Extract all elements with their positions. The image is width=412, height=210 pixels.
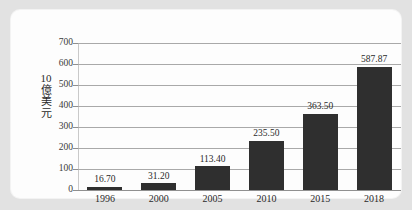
y-tick-mark-600 (73, 64, 78, 65)
bar-value-label-2005: 113.40 (200, 155, 226, 165)
bar-2005[interactable]: 113.402005 (195, 166, 230, 190)
x-tick-label-2005: 2005 (203, 194, 223, 204)
gridline-400: 400 (78, 106, 401, 107)
y-axis-title: 10 億 美 元 (33, 73, 59, 119)
y-tick-mark-300 (73, 127, 78, 128)
y-tick-label-500: 500 (59, 80, 73, 90)
y-tick-mark-0 (73, 190, 78, 191)
bar-2015[interactable]: 363.502015 (303, 114, 338, 190)
x-tick-label-2015: 2015 (310, 194, 330, 204)
x-tick-label-2018: 2018 (364, 194, 384, 204)
x-tick-label-2000: 2000 (149, 194, 169, 204)
gridline-700: 700 (78, 43, 401, 44)
x-tick-label-2010: 2010 (256, 194, 276, 204)
gridline-500: 500 (78, 85, 401, 86)
gridline-300: 300 (78, 127, 401, 128)
gridline-100: 100 (78, 169, 401, 170)
bar-value-label-2010: 235.50 (253, 129, 279, 139)
y-tick-label-700: 700 (59, 38, 73, 48)
bar-2018[interactable]: 587.872018 (357, 67, 392, 190)
chart-card: 10 億 美 元 0100200300400500600700 16.70199… (11, 10, 401, 198)
x-tick-label-1996: 1996 (95, 194, 115, 204)
bar-value-label-2000: 31.20 (148, 172, 169, 182)
y-tick-mark-400 (73, 106, 78, 107)
y-tick-mark-200 (73, 148, 78, 149)
y-tick-mark-700 (73, 43, 78, 44)
bar-value-label-2015: 363.50 (307, 102, 333, 112)
bar-2000[interactable]: 31.202000 (141, 183, 176, 190)
y-tick-label-600: 600 (59, 59, 73, 69)
bar-value-label-1996: 16.70 (94, 175, 115, 185)
y-axis-title-line-3: 元 (33, 108, 59, 120)
bar-2010[interactable]: 235.502010 (249, 141, 284, 190)
y-tick-label-200: 200 (59, 143, 73, 153)
figure-root: 10 億 美 元 0100200300400500600700 16.70199… (0, 0, 412, 210)
y-tick-mark-500 (73, 85, 78, 86)
y-axis-title-line-2: 美 (33, 96, 59, 108)
gridline-600: 600 (78, 64, 401, 65)
y-tick-label-0: 0 (68, 185, 73, 195)
bar-value-label-2018: 587.87 (361, 55, 387, 65)
y-tick-mark-100 (73, 169, 78, 170)
gridline-0: 0 (78, 190, 401, 191)
y-tick-label-300: 300 (59, 122, 73, 132)
y-tick-label-400: 400 (59, 101, 73, 111)
gridline-200: 200 (78, 148, 401, 149)
bar-1996[interactable]: 16.701996 (87, 187, 122, 191)
y-axis-title-line-0: 10 (33, 73, 59, 85)
y-tick-label-100: 100 (59, 164, 73, 174)
plot-area: 0100200300400500600700 16.70199631.20200… (78, 43, 401, 190)
